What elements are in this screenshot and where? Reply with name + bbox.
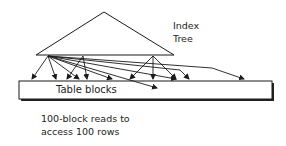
pointer-arrow <box>130 56 153 79</box>
caption-line1: 100-block reads to <box>41 112 130 125</box>
caption: 100-block reads to access 100 rows <box>41 112 130 138</box>
index-tree-diagram: Index Tree Table blocks 100-block reads … <box>0 0 286 146</box>
pointer-arrow <box>32 56 48 79</box>
index-tree-label: Index Tree <box>173 19 199 45</box>
pointer-arrow <box>48 56 79 79</box>
table-blocks-label: Table blocks <box>56 84 117 96</box>
index-tree-triangle <box>36 12 174 55</box>
index-label-line2: Tree <box>173 32 199 45</box>
caption-line2: access 100 rows <box>41 125 130 138</box>
index-label-line1: Index <box>173 19 199 32</box>
